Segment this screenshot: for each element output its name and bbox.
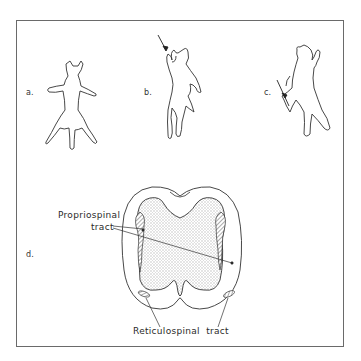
cat-b-figure bbox=[167, 48, 201, 138]
panel-label-d: d. bbox=[26, 250, 34, 259]
panel-label-a: a. bbox=[26, 88, 34, 97]
panel-label-c: c. bbox=[264, 88, 271, 97]
propriospinal-label-line2: tract bbox=[91, 222, 114, 232]
propriospinal-label-line1: Propriospinal bbox=[58, 210, 120, 220]
panel-label-b: b. bbox=[144, 88, 152, 97]
cat-a-figure bbox=[46, 61, 97, 150]
cat-c-lesion-arrow bbox=[277, 80, 289, 106]
figure-illustration bbox=[0, 0, 361, 361]
cat-c-figure bbox=[282, 45, 330, 136]
cat-b-lesion-arrow bbox=[158, 35, 168, 51]
reticulospinal-label: Reticulospinal tract bbox=[133, 326, 229, 336]
